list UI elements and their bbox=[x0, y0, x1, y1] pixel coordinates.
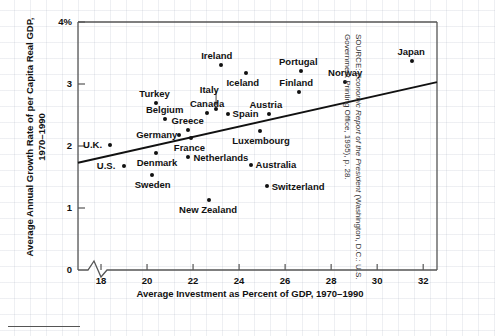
point-label: Germany bbox=[136, 130, 177, 140]
point-label: Netherlands bbox=[193, 153, 248, 163]
point-label: Portugal bbox=[279, 57, 318, 67]
data-point bbox=[226, 112, 230, 116]
y-axis-title: Average Annual Growth Rate of per Capita… bbox=[24, 17, 48, 257]
data-point bbox=[122, 164, 126, 168]
x-tick-label: 30 bbox=[370, 276, 384, 286]
y-tick-label: 4% bbox=[48, 17, 72, 27]
data-point bbox=[150, 173, 154, 177]
chart-page: U.K.U.S.SwedenDenmarkTurkeyBelgiumGerman… bbox=[0, 0, 495, 336]
data-point bbox=[410, 59, 414, 63]
data-point bbox=[297, 90, 301, 94]
y-tick-label: 3 bbox=[48, 79, 72, 89]
data-point bbox=[189, 136, 193, 140]
point-label: U.S. bbox=[97, 161, 115, 171]
point-label: Belgium bbox=[146, 105, 183, 115]
x-tick-label: 20 bbox=[140, 276, 154, 286]
scatter-plot: U.K.U.S.SwedenDenmarkTurkeyBelgiumGerman… bbox=[0, 0, 495, 336]
x-tick-label: 24 bbox=[232, 276, 246, 286]
point-label: Finland bbox=[279, 78, 313, 88]
point-label: Italy bbox=[200, 85, 219, 95]
data-point bbox=[108, 143, 112, 147]
point-label: Sweden bbox=[135, 180, 171, 190]
point-label: Ireland bbox=[201, 51, 232, 61]
data-point bbox=[249, 163, 253, 167]
point-label: Denmark bbox=[137, 158, 178, 168]
x-tick-label: 18 bbox=[94, 276, 108, 286]
point-label: Japan bbox=[397, 47, 424, 57]
y-tick-label: 2 bbox=[48, 141, 72, 151]
x-tick-label: 26 bbox=[278, 276, 292, 286]
source-note: SOURCE: Economic Report of the President… bbox=[342, 34, 363, 302]
point-label: Iceland bbox=[226, 78, 259, 88]
point-label: Spain bbox=[233, 109, 259, 119]
x-axis-title: Average Investment as Percent of GDP, 19… bbox=[120, 288, 380, 300]
point-label: Switzerland bbox=[272, 182, 325, 192]
data-point bbox=[205, 111, 209, 115]
data-point bbox=[258, 129, 262, 133]
x-tick-label: 32 bbox=[416, 276, 430, 286]
y-tick-label: 0 bbox=[48, 265, 72, 275]
y-tick-label: 1 bbox=[48, 203, 72, 213]
point-label: Turkey bbox=[139, 89, 169, 99]
data-point bbox=[244, 71, 248, 75]
point-label: U.K. bbox=[83, 140, 102, 150]
point-label: Australia bbox=[256, 160, 297, 170]
point-label: Luxembourg bbox=[232, 136, 290, 146]
source-title: Economic Report of the President bbox=[354, 73, 363, 193]
x-tick-label: 22 bbox=[186, 276, 200, 286]
x-tick-label: 28 bbox=[324, 276, 338, 286]
point-label: Austria bbox=[249, 100, 282, 110]
point-label: France bbox=[174, 143, 205, 153]
footer-rule bbox=[8, 326, 80, 327]
point-label: New Zealand bbox=[179, 205, 237, 215]
point-label: Canada bbox=[190, 99, 224, 109]
point-label: Greece bbox=[172, 116, 204, 126]
source-prefix: SOURCE: bbox=[354, 34, 363, 73]
